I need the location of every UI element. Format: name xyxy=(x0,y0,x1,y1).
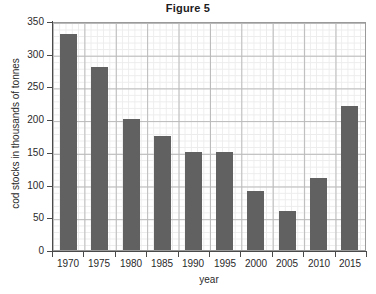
bar-1990 xyxy=(185,152,202,250)
bar-slot xyxy=(53,23,84,250)
bar-2015 xyxy=(341,106,358,250)
y-tick-300 xyxy=(47,55,52,56)
x-tick-label-1970: 1970 xyxy=(51,258,85,269)
y-tick-label-350: 350 xyxy=(0,17,44,27)
y-tick-150 xyxy=(47,153,52,154)
x-tick-label-2015: 2015 xyxy=(333,258,367,269)
bar-1985 xyxy=(154,136,171,251)
x-tick-6 xyxy=(240,252,241,257)
bar-1995 xyxy=(216,152,233,250)
y-tick-label-0: 0 xyxy=(0,246,44,256)
x-tick-5 xyxy=(209,252,210,257)
y-axis-line xyxy=(52,21,53,252)
x-tick-4 xyxy=(178,252,179,257)
bar-1970 xyxy=(60,34,77,250)
x-tick-label-1975: 1975 xyxy=(82,258,116,269)
x-tick-2 xyxy=(115,252,116,257)
y-tick-label-100: 100 xyxy=(0,181,44,191)
bar-2005 xyxy=(279,211,296,250)
bar-1980 xyxy=(123,119,140,250)
y-tick-200 xyxy=(47,120,52,121)
x-tick-label-1990: 1990 xyxy=(176,258,210,269)
bar-1975 xyxy=(91,67,108,250)
x-tick-8 xyxy=(303,252,304,257)
y-tick-label-150: 150 xyxy=(0,148,44,158)
x-tick-label-2010: 2010 xyxy=(302,258,336,269)
bar-slot xyxy=(178,23,209,250)
x-tick-label-1985: 1985 xyxy=(145,258,179,269)
x-tick-1 xyxy=(83,252,84,257)
plot-area xyxy=(52,22,366,251)
y-tick-label-250: 250 xyxy=(0,82,44,92)
bar-slot xyxy=(209,23,240,250)
bar-series xyxy=(53,23,365,250)
figure-container: Figure 5 cod stocks in thousands of tonn… xyxy=(0,0,376,294)
chart-title: Figure 5 xyxy=(0,2,376,14)
bar-slot xyxy=(303,23,334,250)
x-tick-0 xyxy=(52,252,53,257)
x-axis-label: year xyxy=(52,274,366,285)
x-tick-3 xyxy=(146,252,147,257)
x-tick-label-1980: 1980 xyxy=(114,258,148,269)
y-tick-100 xyxy=(47,186,52,187)
y-tick-50 xyxy=(47,218,52,219)
x-tick-7 xyxy=(272,252,273,257)
bar-2010 xyxy=(310,178,327,250)
y-tick-label-200: 200 xyxy=(0,115,44,125)
x-tick-10 xyxy=(366,252,367,257)
bar-slot xyxy=(147,23,178,250)
x-tick-label-2005: 2005 xyxy=(270,258,304,269)
x-tick-label-2000: 2000 xyxy=(239,258,273,269)
y-tick-250 xyxy=(47,87,52,88)
y-tick-label-50: 50 xyxy=(0,213,44,223)
bar-slot xyxy=(84,23,115,250)
y-tick-label-300: 300 xyxy=(0,50,44,60)
bar-2000 xyxy=(247,191,264,250)
bar-slot xyxy=(334,23,365,250)
bar-slot xyxy=(271,23,302,250)
bar-slot xyxy=(115,23,146,250)
bar-slot xyxy=(240,23,271,250)
x-tick-label-1995: 1995 xyxy=(208,258,242,269)
x-tick-9 xyxy=(335,252,336,257)
y-tick-350 xyxy=(47,22,52,23)
